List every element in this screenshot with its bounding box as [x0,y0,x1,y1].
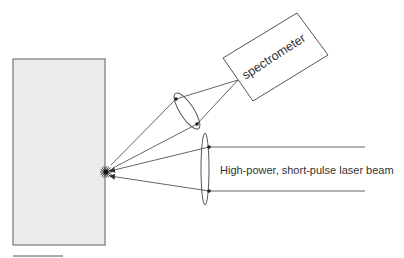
collection-rays [111,80,238,168]
libs-diagram: spectrometer High-power, short-pulse las… [0,0,404,258]
spectrometer-box: spectrometer [223,13,328,101]
spark-icon [100,166,112,178]
sample-block [13,59,105,245]
laser-beam-label: High-power, short-pulse laser beam [220,164,394,176]
lens-dot [174,97,178,101]
focusing-lens [201,133,209,205]
lens-dot [207,145,211,149]
lens-dot [195,122,199,126]
lens-dot [207,189,211,193]
